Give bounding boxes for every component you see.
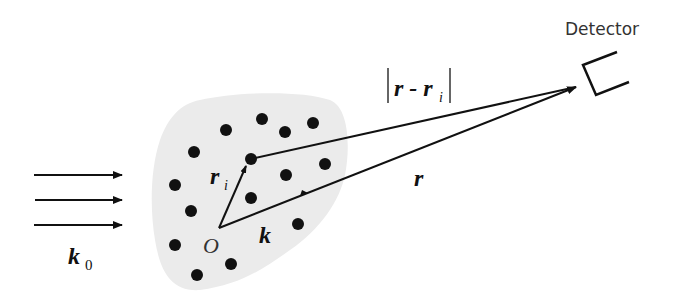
r-label: r xyxy=(414,165,424,191)
detector-label: Detector xyxy=(565,19,639,39)
k0-label: k 0 xyxy=(68,243,93,273)
detector-icon xyxy=(583,52,629,95)
incident-beam xyxy=(34,175,122,225)
distance-label: r - r i xyxy=(388,68,450,105)
scattering-diagram: Detector k 0 r i O k r r - r i xyxy=(0,0,692,292)
svg-text:i: i xyxy=(224,178,228,193)
svg-text:i: i xyxy=(439,90,443,105)
svg-text:r - r: r - r xyxy=(394,75,433,101)
origin-label: O xyxy=(203,233,219,258)
k-label: k xyxy=(259,222,271,248)
svg-text:0: 0 xyxy=(85,257,93,273)
svg-text:k: k xyxy=(68,243,80,269)
svg-text:r: r xyxy=(210,163,220,189)
